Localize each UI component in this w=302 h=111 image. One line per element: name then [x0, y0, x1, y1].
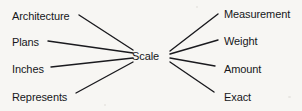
- spoke-line-plans: [48, 41, 133, 53]
- spoke-line-architecture: [79, 15, 133, 50]
- spoke-line-represents: [76, 62, 133, 93]
- spoke-line-measurement: [170, 14, 218, 51]
- scan-speckle: [196, 6, 198, 8]
- branch-label-inches: Inches: [12, 63, 44, 75]
- branch-label-exact: Exact: [224, 91, 251, 103]
- branch-label-measurement: Measurement: [224, 8, 290, 20]
- spoke-line-inches: [51, 58, 133, 67]
- branch-label-plans: Plans: [12, 36, 39, 48]
- scan-speckle: [288, 96, 291, 98]
- scan-speckle: [104, 104, 106, 106]
- branch-label-architecture: Architecture: [12, 10, 70, 22]
- center-node-label: Scale: [132, 50, 159, 62]
- branch-label-represents: Represents: [12, 91, 67, 103]
- word-web-diagram: Scale ArchitecturePlansInchesRepresentsM…: [0, 0, 302, 111]
- spoke-line-amount: [170, 58, 215, 66]
- branch-label-weight: Weight: [224, 35, 257, 47]
- spoke-line-exact: [170, 62, 214, 92]
- spoke-line-weight: [170, 40, 218, 54]
- branch-label-amount: Amount: [224, 63, 261, 75]
